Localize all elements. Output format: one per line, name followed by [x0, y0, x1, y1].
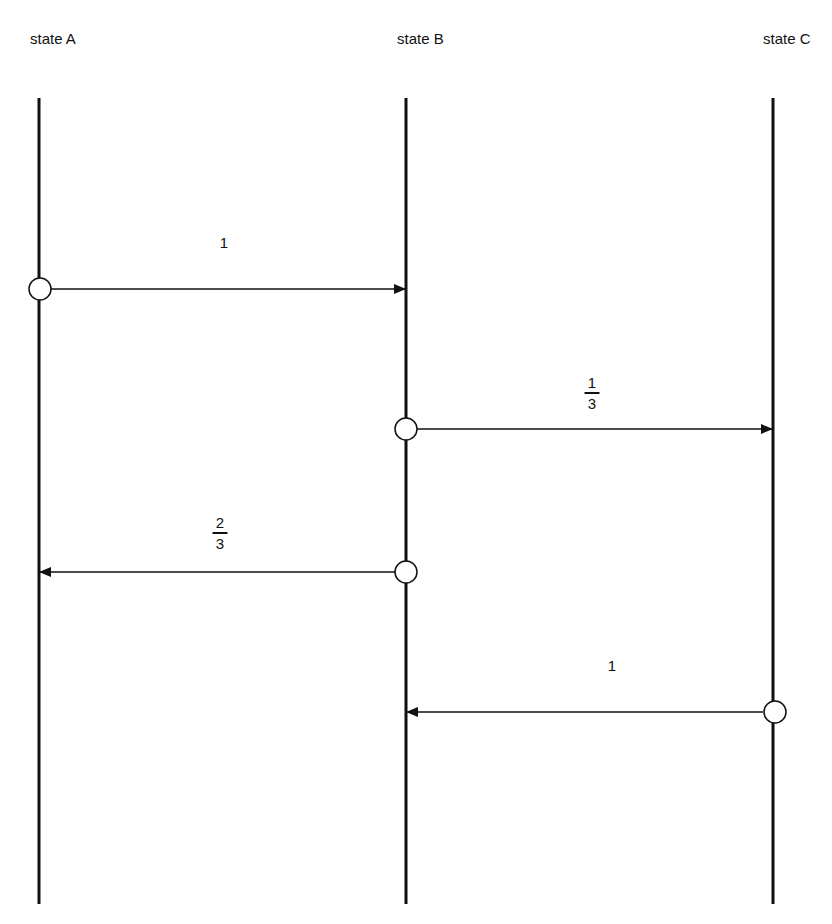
- fraction-denominator: 3: [216, 536, 224, 552]
- transition-label-b-to-a: 2 3: [213, 515, 228, 552]
- fraction-bar: [213, 532, 228, 534]
- transition-label-c-to-b: 1: [608, 657, 616, 674]
- origin-circle-c: [764, 701, 786, 723]
- transition-label-b-to-c: 1 3: [585, 375, 600, 412]
- origin-circle-b2: [395, 561, 417, 583]
- fraction-denominator: 3: [588, 396, 596, 412]
- fraction-numerator: 2: [216, 515, 224, 531]
- origin-circle-a: [29, 278, 51, 300]
- transition-label-a-to-b: 1: [220, 234, 228, 251]
- diagram-canvas: [0, 0, 832, 924]
- fraction-bar: [585, 392, 600, 394]
- fraction-numerator: 1: [588, 375, 596, 391]
- origin-circle-b1: [395, 418, 417, 440]
